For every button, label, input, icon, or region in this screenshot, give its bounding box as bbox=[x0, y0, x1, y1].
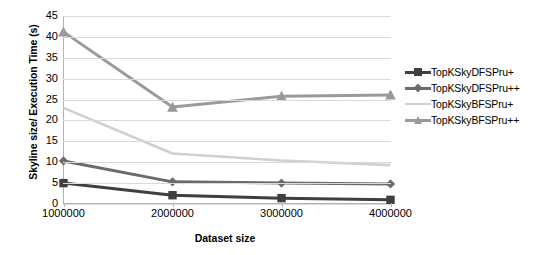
y-tick-label: 5 bbox=[12, 177, 58, 188]
y-tick-label: 35 bbox=[12, 52, 58, 63]
series-4 bbox=[58, 26, 396, 111]
x-axis-tick-labels: 1000000200000030000004000000 bbox=[0, 207, 542, 223]
legend-item-label: TopKSkyDFSPru++ bbox=[431, 82, 520, 94]
plot-area bbox=[63, 16, 391, 204]
gridline bbox=[63, 204, 391, 205]
legend-marker-icon bbox=[405, 65, 431, 79]
legend-item-label: TopKSkyBFSPru+ bbox=[431, 98, 513, 110]
y-tick-label: 45 bbox=[12, 10, 58, 21]
legend-marker-icon bbox=[405, 97, 431, 111]
legend-item-2[interactable]: TopKSkyDFSPru++ bbox=[405, 80, 541, 96]
y-tick-label: 25 bbox=[12, 94, 58, 105]
series-line bbox=[64, 183, 391, 200]
legend-marker-icon bbox=[405, 81, 431, 95]
gridline bbox=[63, 141, 391, 142]
gridline bbox=[63, 16, 391, 17]
gridline bbox=[63, 100, 391, 101]
gridline bbox=[63, 79, 391, 80]
legend-item-label: TopKSkyBFSPru++ bbox=[431, 114, 519, 126]
data-point-marker bbox=[58, 26, 69, 36]
series-line bbox=[64, 108, 391, 165]
legend-item-label: TopKSkyDFSPru+ bbox=[431, 66, 514, 78]
legend-item-3[interactable]: TopKSkyBFSPru+ bbox=[405, 96, 541, 112]
gridline bbox=[63, 183, 391, 184]
y-tick-label: 40 bbox=[12, 31, 58, 42]
series-layer bbox=[63, 16, 391, 204]
gridline bbox=[63, 37, 391, 38]
legend-item-1[interactable]: TopKSkyDFSPru+ bbox=[405, 64, 541, 80]
x-tick-label: 4000000 bbox=[346, 207, 436, 220]
data-point-marker bbox=[277, 194, 285, 202]
series-line bbox=[64, 161, 391, 184]
x-tick-label: 1000000 bbox=[19, 207, 109, 220]
series-line bbox=[64, 32, 391, 107]
legend-marker-icon bbox=[405, 113, 431, 127]
y-tick-label: 10 bbox=[12, 156, 58, 167]
data-point-marker bbox=[59, 156, 68, 165]
y-tick-label: 30 bbox=[12, 73, 58, 84]
legend-item-4[interactable]: TopKSkyBFSPru++ bbox=[405, 112, 541, 128]
series-3 bbox=[64, 108, 391, 165]
data-point-marker bbox=[168, 177, 177, 186]
x-tick-label: 2000000 bbox=[128, 207, 218, 220]
data-point-marker bbox=[168, 191, 176, 199]
x-axis-title: Dataset size bbox=[55, 232, 395, 244]
x-tick-label: 3000000 bbox=[237, 207, 327, 220]
chart-legend: TopKSkyDFSPru+TopKSkyDFSPru++TopKSkyBFSP… bbox=[405, 64, 541, 128]
line-chart: Skyline size/ Execution Time (s) 0510152… bbox=[0, 0, 542, 255]
gridline bbox=[63, 58, 391, 59]
y-tick-label: 20 bbox=[12, 114, 58, 125]
gridline bbox=[63, 162, 391, 163]
y-tick-label: 15 bbox=[12, 135, 58, 146]
gridline bbox=[63, 120, 391, 121]
